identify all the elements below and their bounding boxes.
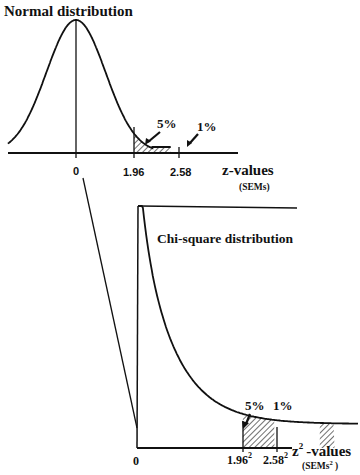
chisq-y-axis xyxy=(137,206,138,448)
chisq-x-label: z2-values xyxy=(292,441,351,459)
normal-label-1pct: 1% xyxy=(197,119,217,134)
normal-x-unit: (SEMs) xyxy=(239,182,270,193)
normal-tick-label-0: 0 xyxy=(73,165,79,177)
chisq-tick-label-1.96sq: 1.962 xyxy=(227,451,252,467)
connector-line xyxy=(83,178,137,428)
normal-x-label: z-values xyxy=(222,162,274,178)
figure: Normal distribution 0 1.96 2.58 5% 1% z-… xyxy=(0,0,360,475)
chisq-label-1pct: 1% xyxy=(273,398,293,413)
normal-label-5pct: 5% xyxy=(157,116,177,131)
normal-title: Normal distribution xyxy=(4,3,133,19)
normal-panel: Normal distribution 0 1.96 2.58 5% 1% z-… xyxy=(4,3,274,193)
normal-tick-label-1.96: 1.96 xyxy=(123,166,144,178)
chisq-tick-label-0: 0 xyxy=(133,454,139,468)
chisq-title: Chi-square distribution xyxy=(157,231,293,246)
chisq-top-line xyxy=(140,206,297,208)
chisq-label-5pct: 5% xyxy=(245,398,265,413)
chisq-panel: Chi-square distribution 0 1.962 2.582 5%… xyxy=(133,206,358,472)
chisq-tick-label-2.58sq: 2.582 xyxy=(263,451,288,467)
normal-curve xyxy=(8,20,171,148)
arrow-1pct xyxy=(190,134,198,143)
chisq-x-unit: (SEMs2 ) xyxy=(302,459,338,472)
normal-tick-label-2.58: 2.58 xyxy=(170,166,191,178)
